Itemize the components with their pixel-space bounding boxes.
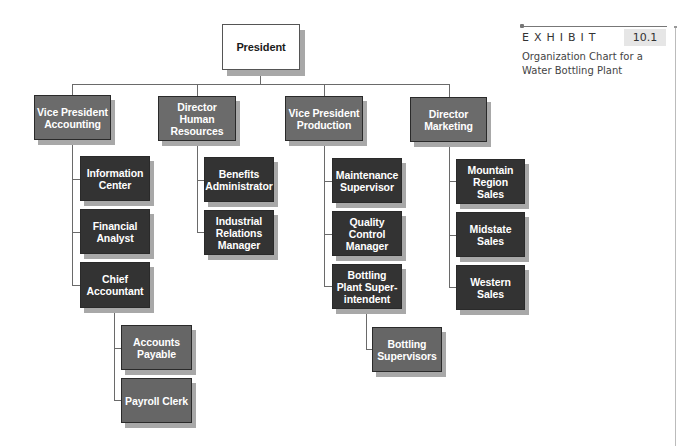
node-bottling-plant-superintendent: Bottling Plant Super- intendent [332,264,402,309]
connector-bottling-plant [324,286,332,287]
exhibit-number: 10.1 [624,29,666,46]
connector-financial-analyst [72,232,80,233]
connector-payroll-clerk [114,400,121,401]
node-mountain-region-sales: Mountain Region Sales [456,159,525,204]
connector-production-vertical [324,141,325,287]
node-chief-accountant: Chief Accountant [80,262,150,308]
connector-dir-marketing-up [449,84,450,97]
node-maintenance-supervisor: Maintenance Supervisor [332,158,402,203]
node-quality-control-manager: Quality Control Manager [332,211,402,256]
node-vp-production: Vice President Production [285,96,363,141]
connector-information-center [72,179,80,180]
node-director-marketing: Director Marketing [410,97,487,142]
node-benefits-administrator: Benefits Administrator [204,157,274,202]
node-financial-analyst: Financial Analyst [80,209,150,254]
connector-top-horizontal [72,84,450,85]
connector-quality-control [324,234,332,235]
connector-president-down [260,70,261,85]
node-information-center: Information Center [80,156,150,201]
node-vp-accounting: Vice President Accounting [34,95,111,140]
connector-maintenance [324,181,332,182]
exhibit-rule [522,26,667,27]
node-accounts-payable: Accounts Payable [121,325,192,370]
connector-chief-accountant [72,285,80,286]
connector-midstate [449,235,456,236]
node-president: President [222,24,300,70]
node-western-sales: Western Sales [456,265,525,310]
connector-mountain-region [449,181,456,182]
node-midstate-sales: Midstate Sales [456,212,525,257]
node-payroll-clerk: Payroll Clerk [121,378,192,423]
connector-bottling-plant-down [366,309,367,350]
connector-marketing-vertical [449,142,450,288]
connector-hr-vertical [197,141,198,233]
exhibit-label: EXHIBIT [522,31,601,44]
connector-chief-accountant-down [114,308,115,401]
node-bottling-supervisors: Bottling Supervisors [372,327,442,372]
node-director-human-resources: Director Human Resources [158,96,236,141]
connector-accounting-vertical [72,140,73,286]
connector-accounts-payable [114,348,121,349]
connector-vp-production-up [324,84,325,96]
exhibit-rule-dot [520,24,524,28]
node-industrial-relations-manager: Industrial Relations Manager [204,210,274,255]
exhibit-caption: Organization Chart for a Water Bottling … [522,50,672,78]
connector-benefits [197,180,204,181]
connector-western [449,287,456,288]
margin-rule [675,28,676,446]
connector-industrial-relations [197,232,204,233]
connector-dir-hr-up [197,84,198,96]
